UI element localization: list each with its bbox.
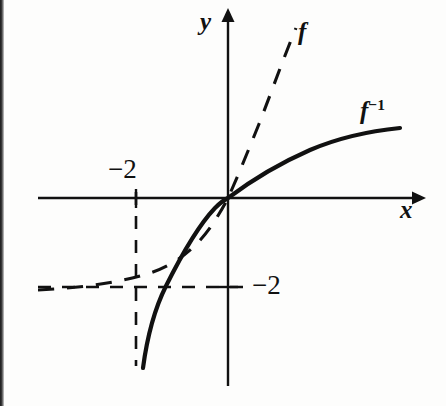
- x-tick-label-minus-two: −2: [108, 154, 137, 185]
- curve-f-inverse: [143, 128, 400, 368]
- y-tick-label-minus-two: −2: [252, 270, 281, 301]
- x-axis-arrowhead: [412, 192, 426, 205]
- graph-canvas: [0, 0, 446, 406]
- y-axis-label: y: [200, 8, 211, 36]
- math-figure: y x f f−1 −2 −2: [0, 0, 446, 406]
- curve-label-f-inverse: f−1: [360, 96, 385, 125]
- y-axis-arrowhead: [222, 8, 235, 22]
- curve-label-f-inverse-exponent: −1: [368, 96, 385, 113]
- curve-f: [38, 28, 296, 290]
- x-axis-label: x: [400, 196, 413, 224]
- curve-label-f: f: [298, 18, 306, 46]
